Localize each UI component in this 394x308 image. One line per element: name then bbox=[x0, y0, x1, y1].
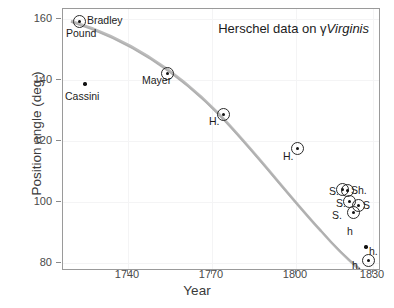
point-label-h-1825: h bbox=[347, 225, 353, 237]
point-label-s-1819: S. bbox=[329, 185, 339, 197]
point-label-bradley: Bradley bbox=[87, 14, 123, 26]
plot-panel: Herschel data on γVirginis Bradley Pound… bbox=[62, 8, 380, 270]
point-label-h-1802: H. bbox=[283, 150, 294, 162]
point-label-s-1821: S. bbox=[336, 197, 346, 209]
point-label-h-1776: H. bbox=[209, 115, 220, 127]
point-label-mayer: Mayer bbox=[142, 74, 171, 86]
y-tickmark bbox=[56, 140, 61, 141]
point-label-sh: Sh. bbox=[351, 184, 367, 196]
point-label-cassini: Cassini bbox=[65, 90, 99, 102]
x-axis-title: Year bbox=[0, 283, 394, 298]
data-point-h-1830[interactable] bbox=[362, 254, 375, 267]
point-label-s-1823b: S. bbox=[332, 209, 342, 221]
data-point-cassini[interactable] bbox=[83, 82, 86, 85]
y-tickmark bbox=[56, 201, 61, 202]
point-label-h-1830: h. bbox=[352, 259, 361, 270]
point-label-pound: Pound bbox=[66, 27, 96, 39]
chart-container: Position angle (deg.) 160 140 120 100 80… bbox=[0, 0, 394, 308]
fitted-curve bbox=[63, 9, 379, 269]
data-point-h-1828[interactable] bbox=[364, 245, 367, 248]
point-label-s-1823a: S bbox=[363, 199, 370, 211]
y-tickmark bbox=[56, 262, 61, 263]
data-point-s-1823b[interactable] bbox=[347, 206, 360, 219]
y-tickmark bbox=[56, 18, 61, 19]
y-tickmark bbox=[56, 79, 61, 80]
